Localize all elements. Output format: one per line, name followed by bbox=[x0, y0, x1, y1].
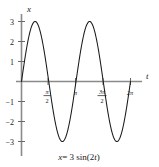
y-tick-label-2: 2 bbox=[10, 38, 14, 47]
y-tick-label-neg2: −2 bbox=[5, 118, 14, 127]
figure-caption: x= 3 sin(2t) bbox=[57, 152, 100, 162]
caption-close: ) bbox=[97, 152, 100, 162]
y-tick-label-1: 1 bbox=[10, 58, 14, 67]
y-axis-label: x bbox=[26, 4, 31, 14]
x-tick-label-2pi: 2π bbox=[127, 89, 134, 96]
x-tick-label-pi-over-2: π 2 bbox=[44, 88, 51, 104]
sine-wave-figure: 3 2 1 −1 −2 −3 π 2 π 3π 2 2π x t bbox=[0, 0, 159, 167]
x-tick-label-3pi-over-2-denominator: 2 bbox=[100, 97, 103, 104]
y-tick-label-neg1: −1 bbox=[5, 98, 14, 107]
caption-equals: = 3 sin(2 bbox=[62, 152, 94, 162]
y-tick-label-neg3: −3 bbox=[5, 138, 14, 147]
y-tick-label-3: 3 bbox=[10, 18, 14, 27]
x-tick-label-pi-over-2-numerator: π bbox=[45, 88, 49, 95]
x-tick-label-pi-over-2-denominator: 2 bbox=[45, 97, 48, 104]
x-axis-label: t bbox=[146, 71, 149, 81]
plot-area: 3 2 1 −1 −2 −3 π 2 π 3π 2 2π x t bbox=[0, 0, 159, 167]
